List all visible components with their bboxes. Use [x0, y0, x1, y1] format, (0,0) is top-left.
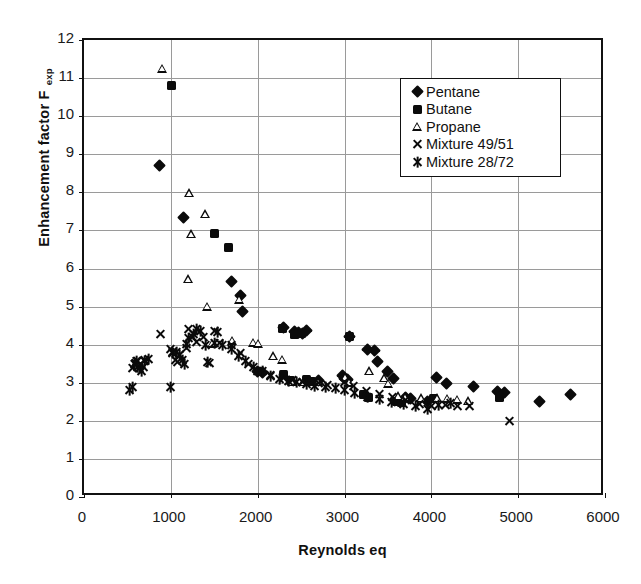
data-point	[226, 344, 237, 355]
data-point	[330, 383, 341, 394]
x-tick-label: 1000	[134, 508, 204, 525]
legend-item-label: Propane	[425, 119, 481, 135]
legend-marker-open-triangle-icon	[409, 120, 425, 134]
data-point	[265, 370, 276, 381]
data-point	[202, 356, 213, 367]
y-tick-label: 5	[40, 296, 74, 313]
data-point	[374, 393, 385, 404]
y-tick-label: 2	[40, 410, 74, 427]
y-tick-label: 3	[40, 372, 74, 389]
y-tick-label: 10	[40, 105, 74, 122]
data-point	[132, 361, 143, 372]
data-point	[131, 355, 142, 366]
x-tick-label: 0	[47, 508, 117, 525]
x-tick-mark	[518, 493, 519, 498]
data-point	[433, 399, 444, 410]
data-point	[136, 366, 147, 377]
legend-marker-open-triangle-icon	[412, 122, 422, 131]
x-tick-label: 2000	[221, 508, 291, 525]
data-point	[165, 382, 176, 393]
data-point	[362, 392, 373, 403]
data-point	[274, 373, 285, 384]
data-point	[200, 340, 211, 351]
data-point	[188, 329, 199, 340]
data-point	[212, 327, 223, 338]
data-point	[179, 358, 190, 369]
data-point	[248, 361, 259, 372]
x-tick-label: 3000	[308, 508, 378, 525]
legend-item-propane[interactable]: Propane	[409, 118, 554, 136]
legend-item-label: Mixture 28/72	[425, 154, 514, 170]
x-tick-mark	[84, 493, 85, 498]
y-tick-label: 8	[40, 181, 74, 198]
data-point	[191, 324, 202, 335]
data-point	[209, 337, 220, 348]
y-tick-label: 4	[40, 334, 74, 351]
x-tick-mark	[605, 493, 606, 498]
data-point	[349, 388, 360, 399]
legend-marker-six-star-icon	[412, 156, 423, 167]
y-tick-label: 9	[40, 143, 74, 160]
data-point	[398, 398, 409, 409]
data-point	[301, 378, 312, 389]
x-tick-label: 5000	[481, 508, 551, 525]
data-point	[309, 380, 320, 391]
legend-item-mixture-49-51[interactable]: Mixture 49/51	[409, 136, 554, 154]
data-point	[283, 375, 294, 386]
data-point	[386, 396, 397, 407]
chart-figure: Enhancement factor F exp Reynolds eq 012…	[0, 0, 641, 584]
data-point	[257, 366, 268, 377]
x-tick-mark	[171, 493, 172, 498]
data-point	[195, 326, 206, 337]
x-tick-label: 4000	[394, 508, 464, 525]
data-point	[339, 385, 350, 396]
data-point	[134, 363, 145, 374]
legend-marker-filled-square-icon	[409, 102, 425, 116]
legend-marker-six-star-icon	[409, 155, 425, 169]
legend-marker-filled-diamond-icon	[409, 85, 425, 99]
data-point	[127, 382, 138, 393]
legend-item-label: Butane	[425, 101, 472, 117]
y-tick-label: 11	[40, 67, 74, 84]
data-point	[291, 376, 302, 387]
legend-item-butane[interactable]: Butane	[409, 101, 554, 119]
data-point	[139, 355, 150, 366]
x-tick-mark	[345, 493, 346, 498]
legend-item-label: Mixture 49/51	[425, 136, 514, 152]
data-point	[167, 348, 178, 359]
legend-item-pentane[interactable]: Pentane	[409, 83, 554, 101]
data-point	[240, 355, 251, 366]
x-tick-label: 6000	[568, 508, 638, 525]
data-point	[183, 332, 194, 343]
data-point	[171, 346, 182, 357]
legend-marker-x-cross-icon	[412, 139, 423, 150]
legend-marker-filled-square-icon	[413, 105, 422, 114]
y-tick-label: 12	[40, 29, 74, 46]
legend-marker-filled-diamond-icon	[411, 85, 424, 98]
y-tick-label: 7	[40, 219, 74, 236]
data-point	[233, 351, 244, 362]
y-tick-label: 0	[40, 486, 74, 503]
x-tick-mark	[431, 493, 432, 498]
x-axis-title: Reynolds eq	[82, 542, 603, 558]
data-point	[129, 358, 140, 369]
legend: PentaneButanePropaneMixture 49/51Mixture…	[400, 78, 561, 177]
data-point	[320, 382, 331, 393]
data-point	[143, 354, 154, 365]
data-point	[422, 404, 433, 415]
y-tick-label: 6	[40, 258, 74, 275]
data-point	[445, 397, 456, 408]
legend-marker-x-cross-icon	[409, 137, 425, 151]
data-point	[174, 350, 185, 361]
data-point	[410, 400, 421, 411]
data-point	[124, 384, 135, 395]
x-tick-mark	[258, 493, 259, 498]
legend-item-label: Pentane	[425, 84, 480, 100]
data-point	[181, 338, 192, 349]
legend-item-mixture-28-72[interactable]: Mixture 28/72	[409, 153, 554, 171]
y-tick-label: 1	[40, 448, 74, 465]
data-point	[177, 354, 188, 365]
data-point	[217, 340, 228, 351]
